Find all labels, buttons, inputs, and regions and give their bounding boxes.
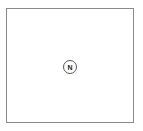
node-circle: N [63, 60, 77, 74]
node-label: N [67, 64, 72, 71]
